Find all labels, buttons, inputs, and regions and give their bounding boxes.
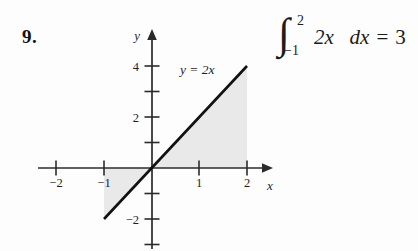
x-axis-label: x: [266, 178, 273, 193]
x-tick-label-neg1: −1: [97, 176, 110, 190]
y-tick-label-neg2: −2: [126, 213, 139, 227]
x-tick-label-2: 2: [244, 176, 250, 190]
x-tick-label-neg2: −2: [49, 176, 62, 190]
integral-result: 3: [395, 25, 406, 50]
integrand-group: 2x dx: [314, 25, 369, 50]
differential: dx: [350, 25, 370, 49]
y-axis-arrowhead: [147, 29, 157, 40]
integral-sign-group: ∫ 2 −1: [278, 14, 312, 60]
y-tick-label-4: 4: [133, 60, 140, 74]
y-axis-label: y: [132, 28, 140, 43]
integrand: 2x: [314, 25, 334, 49]
integral-expression: ∫ 2 −1 2x dx = 3: [278, 14, 406, 60]
y-tick-label-2: 2: [133, 111, 139, 125]
equals-sign: =: [376, 25, 388, 50]
curve-label: y = 2x: [178, 62, 215, 77]
x-axis-arrowhead: [262, 163, 273, 173]
integral-upper-limit: 2: [297, 14, 304, 28]
figure-page: 9.: [0, 0, 418, 251]
coordinate-plane: −2 −1 1 2 4 2 −2 y x y = 2x: [0, 0, 300, 251]
x-tick-label-1: 1: [196, 176, 202, 190]
integral-lower-limit: −1: [284, 44, 299, 58]
graph-figure: −2 −1 1 2 4 2 −2 y x y = 2x: [0, 0, 300, 251]
